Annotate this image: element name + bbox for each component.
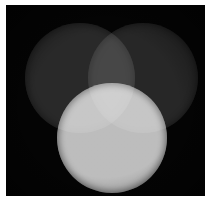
image-root	[0, 0, 219, 208]
venn-circle-bottom	[57, 83, 167, 193]
render-canvas	[6, 5, 205, 196]
